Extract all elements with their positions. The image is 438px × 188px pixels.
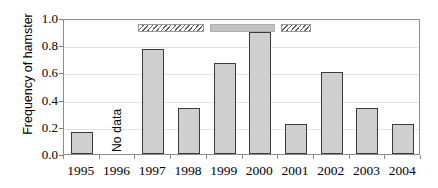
x-axis-tick-label: 2002 — [317, 163, 344, 179]
y-axis-tick-mark — [59, 73, 63, 74]
bar-slot — [385, 20, 421, 154]
bar — [178, 108, 200, 154]
plot-area: No data — [63, 19, 420, 155]
y-axis-tick-mark — [59, 128, 63, 129]
bar-slot — [207, 20, 243, 154]
x-axis-tick-label: 2003 — [353, 163, 380, 179]
bar — [356, 108, 378, 154]
x-axis-tick-label: 1995 — [67, 163, 94, 179]
x-axis-tick-mark — [242, 155, 243, 159]
x-axis-tick-mark — [63, 155, 64, 159]
x-axis-tick-label: 2001 — [282, 163, 309, 179]
no-data-marker: No data — [100, 151, 136, 152]
x-axis-tick-label: 1996 — [103, 163, 130, 179]
x-axis-tick-label: 1998 — [174, 163, 201, 179]
bar — [285, 124, 307, 154]
x-axis-tick-mark — [99, 155, 100, 159]
x-axis-tick-mark — [384, 155, 385, 159]
y-axis-tick-mark — [59, 155, 63, 156]
x-axis-tick-label: 2004 — [389, 163, 416, 179]
x-axis-tick-marks — [63, 155, 420, 160]
y-axis-tick-label: 0.2 — [22, 121, 58, 134]
bars: No data — [64, 20, 419, 154]
x-axis-tick-mark — [134, 155, 135, 159]
bar-slot — [350, 20, 386, 154]
x-axis-tick-mark — [420, 155, 421, 159]
bar — [321, 72, 343, 154]
bar-slot: No data — [100, 20, 136, 154]
bar — [249, 32, 271, 154]
y-axis-tick-label: 0.8 — [22, 39, 58, 52]
bar — [142, 49, 164, 154]
y-axis-tick-label: 0.6 — [22, 66, 58, 79]
bar-slot — [314, 20, 350, 154]
x-axis-tick-mark — [206, 155, 207, 159]
y-axis-tick-labels: 1.00.80.60.40.20.0 — [22, 0, 58, 188]
x-axis-tick-label: 1999 — [210, 163, 237, 179]
y-axis-tick-mark — [59, 101, 63, 102]
y-axis-tick-mark — [59, 46, 63, 47]
bar-slot — [171, 20, 207, 154]
x-axis-tick-mark — [277, 155, 278, 159]
x-axis-tick-labels: 1995199619971998199920002001200220032004 — [63, 163, 420, 185]
x-axis-tick-mark — [313, 155, 314, 159]
x-axis-tick-mark — [349, 155, 350, 159]
y-axis-tick-mark — [59, 19, 63, 20]
y-axis-tick-label: 1.0 — [22, 12, 58, 25]
bar-slot — [278, 20, 314, 154]
bar — [214, 63, 236, 154]
y-axis-tick-label: 0.0 — [22, 148, 58, 161]
no-data-label: No data — [110, 109, 124, 152]
x-axis-tick-mark — [170, 155, 171, 159]
bar — [71, 132, 93, 154]
x-axis-tick-label: 1997 — [139, 163, 166, 179]
bar-slot — [243, 20, 279, 154]
bar — [392, 124, 414, 154]
bar-slot — [64, 20, 100, 154]
x-axis-tick-label: 2000 — [246, 163, 273, 179]
y-axis-tick-label: 0.4 — [22, 94, 58, 107]
bar-chart: Frequency of hamster 1.00.80.60.40.20.0 … — [0, 0, 438, 188]
bar-slot — [135, 20, 171, 154]
